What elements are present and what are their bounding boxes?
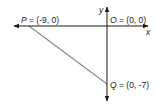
point-q-coords: = (0, -7) <box>117 80 150 90</box>
point-q-label: Q = (0, -7) <box>110 80 149 90</box>
coordinate-diagram: y x P = (-9, 0) O = (0, 0) Q = (0, -7) <box>0 0 156 108</box>
point-o-label: O = (0, 0) <box>110 15 146 25</box>
point-p-coords: = (-9, 0) <box>27 15 60 25</box>
x-axis-label: x <box>145 27 151 37</box>
point-o-coords: = (0, 0) <box>117 15 147 25</box>
point-p-label: P = (-9, 0) <box>21 15 59 25</box>
segment-pq <box>29 26 107 84</box>
y-axis-label: y <box>98 5 104 15</box>
